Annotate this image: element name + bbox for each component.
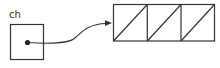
pointer-arrow — [28, 24, 107, 44]
array-cells — [114, 5, 215, 42]
pointer-diagram — [0, 0, 220, 68]
arrowhead-icon — [105, 20, 112, 26]
